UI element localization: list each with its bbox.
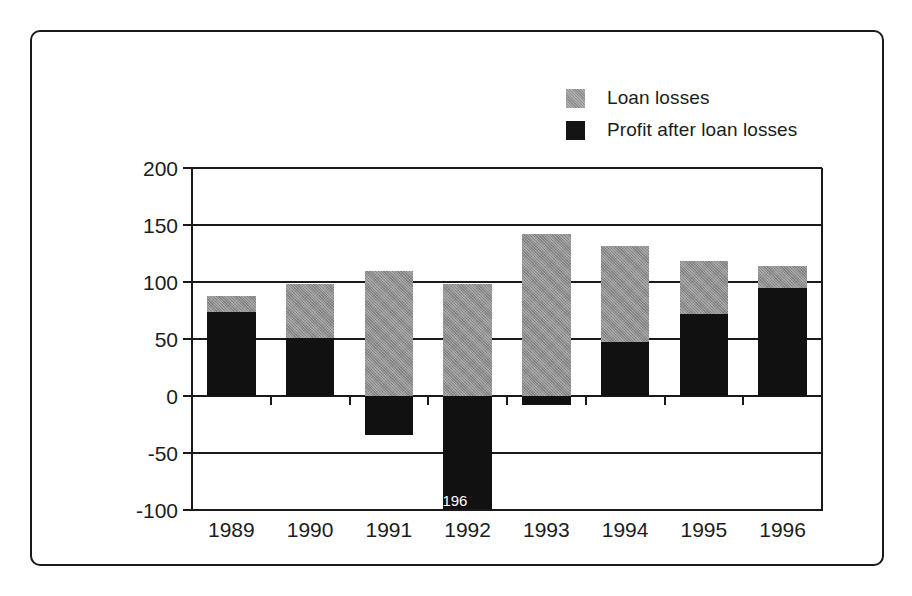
x-tick-label-1992: 1992: [428, 519, 507, 540]
y-tick-mark: [183, 452, 192, 454]
x-tick-mark: [821, 396, 823, 405]
x-tick-label-1996: 1996: [743, 519, 822, 540]
bar-segment-loan-losses[interactable]: [522, 234, 570, 396]
bar-segment-loan-losses[interactable]: [207, 296, 255, 312]
bar-group-1994[interactable]: [601, 168, 649, 510]
legend-entry-profit-after-loan-losses: Profit after loan losses: [566, 114, 896, 146]
y-tick-label: 0: [166, 386, 178, 407]
bar-segment-profit-after-loan-losses[interactable]: [365, 396, 413, 435]
x-tick-mark: [270, 396, 272, 405]
y-tick-mark: [183, 395, 192, 397]
bar-segment-loan-losses[interactable]: [443, 284, 491, 396]
x-tick-mark: [585, 396, 587, 405]
legend-swatch-black-icon: [566, 121, 585, 140]
bar-group-1990[interactable]: [286, 168, 334, 510]
bar-segment-loan-losses[interactable]: [286, 284, 334, 338]
bar-segment-profit-after-loan-losses[interactable]: [286, 338, 334, 396]
y-tick-label: -50: [148, 443, 178, 464]
y-tick-mark: [183, 509, 192, 511]
bar-group-1989[interactable]: [207, 168, 255, 510]
bar-segment-loan-losses[interactable]: [365, 271, 413, 396]
bar-segment-loan-losses[interactable]: [758, 266, 806, 288]
bars-layer: -196: [192, 168, 822, 510]
legend-entry-loan-losses: Loan losses: [566, 82, 896, 114]
bar-group-1992[interactable]: -196: [443, 168, 491, 510]
legend-label-loan-losses: Loan losses: [607, 87, 710, 109]
y-tick-mark: [183, 167, 192, 169]
x-tick-label-1990: 1990: [271, 519, 350, 540]
bar-segment-profit-after-loan-losses[interactable]: [601, 342, 649, 396]
y-tick-mark: [183, 338, 192, 340]
bar-group-1995[interactable]: [680, 168, 728, 510]
bar-group-1996[interactable]: [758, 168, 806, 510]
x-tick-mark: [664, 396, 666, 405]
bar-segment-profit-after-loan-losses[interactable]: [680, 314, 728, 396]
y-tick-mark: [183, 281, 192, 283]
plot-area: 200150100500-50-100 -196: [192, 168, 822, 510]
x-tick-mark: [427, 396, 429, 405]
x-tick-label-1989: 1989: [192, 519, 271, 540]
chart-legend: Loan losses Profit after loan losses: [566, 82, 896, 146]
bar-group-1991[interactable]: [365, 168, 413, 510]
x-tick-label-1993: 1993: [507, 519, 586, 540]
x-tick-label-1994: 1994: [586, 519, 665, 540]
legend-swatch-gray-icon: [566, 89, 585, 108]
x-tick-mark: [742, 396, 744, 405]
x-tick-label-1991: 1991: [350, 519, 429, 540]
y-tick-label: -100: [136, 500, 178, 521]
bar-segment-profit-after-loan-losses[interactable]: [207, 312, 255, 396]
bar-group-1993[interactable]: [522, 168, 570, 510]
bar-segment-loan-losses[interactable]: [601, 246, 649, 343]
y-tick-label: 50: [155, 329, 178, 350]
y-tick-mark: [183, 224, 192, 226]
figure-frame: Loan losses Profit after loan losses 200…: [30, 30, 884, 566]
bar-segment-profit-after-loan-losses[interactable]: [758, 288, 806, 396]
x-tick-mark: [506, 396, 508, 405]
bar-segment-loan-losses[interactable]: [680, 261, 728, 313]
bar-segment-profit-after-loan-losses[interactable]: [522, 396, 570, 405]
y-tick-label: 200: [143, 158, 178, 179]
x-axis-line: [192, 509, 823, 511]
y-tick-label: 150: [143, 215, 178, 236]
x-tick-mark: [349, 396, 351, 405]
x-tick-label-1995: 1995: [665, 519, 744, 540]
bar-value-label: -196: [437, 493, 467, 508]
y-tick-label: 100: [143, 272, 178, 293]
legend-label-profit-after-loan-losses: Profit after loan losses: [607, 119, 797, 141]
